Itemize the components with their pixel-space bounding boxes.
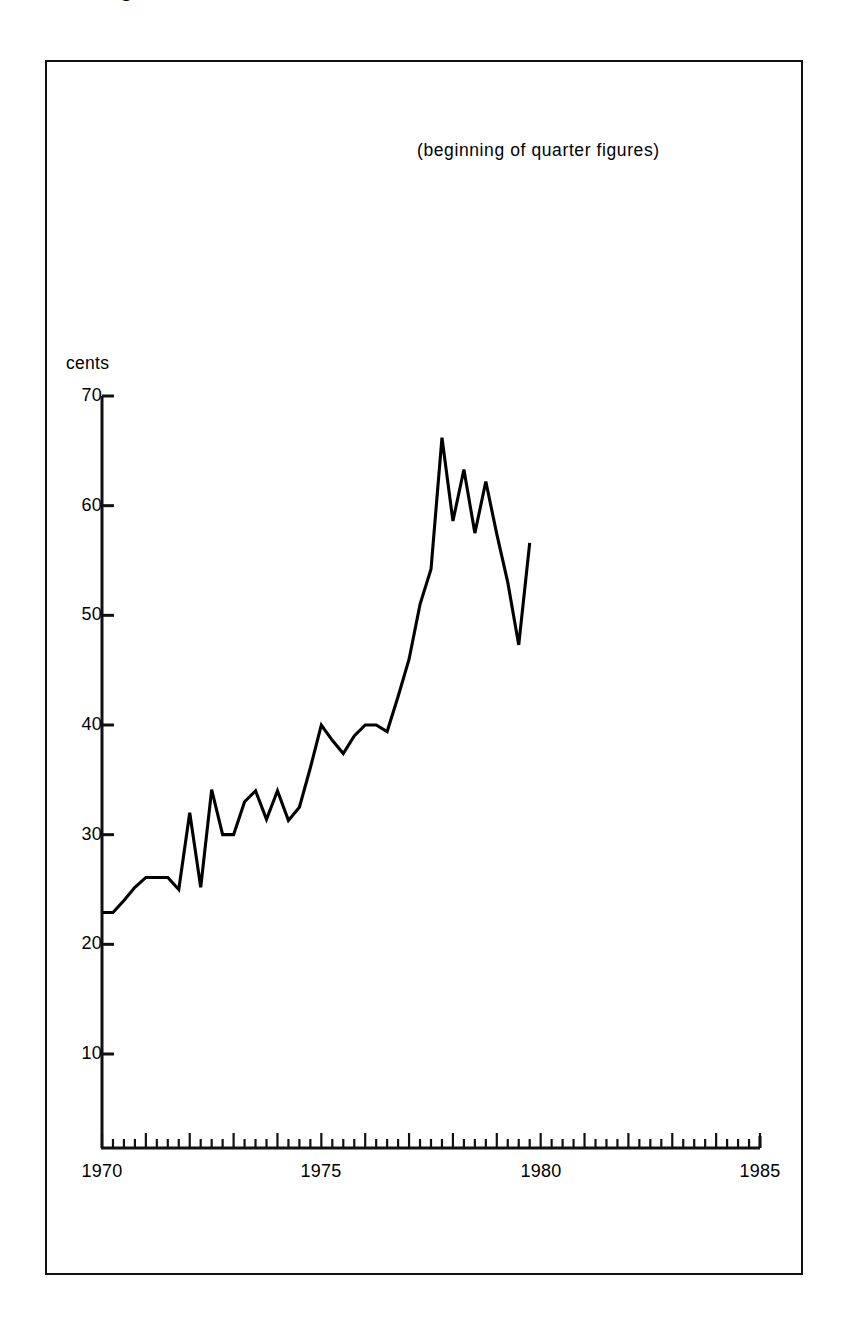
chart-page: g (beginning of quarter figures) cents 7…	[0, 0, 849, 1323]
y-axis-tick-marks	[102, 396, 114, 1054]
chart-plot-area	[0, 0, 849, 1323]
data-series-line	[102, 438, 530, 913]
x-axis-tick-marks	[102, 1133, 760, 1148]
